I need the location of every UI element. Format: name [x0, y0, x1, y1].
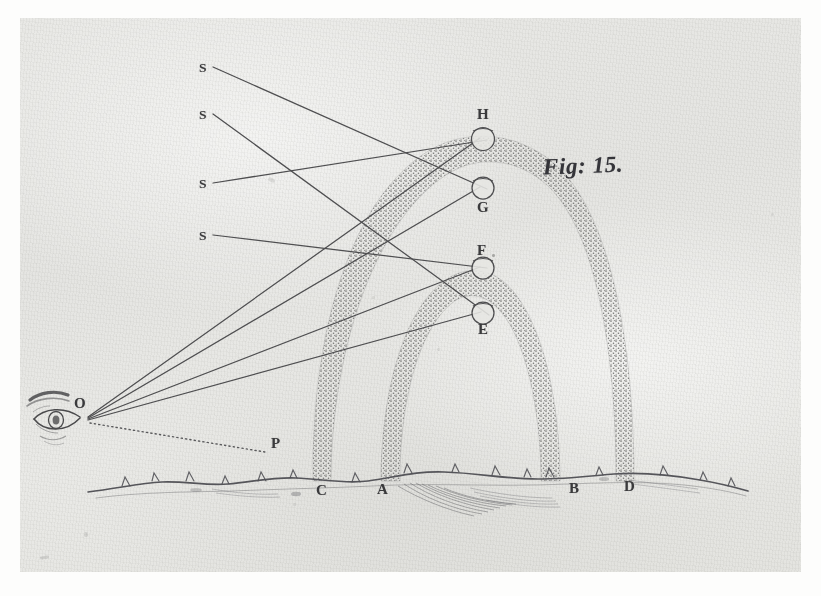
label-raindrop-f: F [477, 243, 486, 258]
label-ground-point-d: D [624, 479, 635, 494]
label-sun-ray-4: S [199, 229, 207, 243]
label-ground-point-a: A [377, 482, 388, 497]
label-sun-ray-3: S [199, 177, 207, 191]
ground-terrain [88, 464, 748, 516]
label-ground-point-b: B [569, 481, 579, 496]
visual-ray-to-H [88, 138, 480, 417]
raindrop-G [472, 177, 494, 199]
label-raindrop-e: E [478, 322, 488, 337]
horizon-axis-dotted-line [90, 423, 265, 452]
raindrop-F [472, 257, 494, 279]
label-raindrop-h: H [477, 107, 489, 122]
eye-icon [27, 392, 80, 444]
label-ground-point-c: C [316, 483, 327, 498]
label-eye-point-o: O [74, 396, 86, 411]
raindrop-H [472, 128, 495, 151]
label-horizon-point-p: P [271, 436, 280, 451]
solar-ray-1 [213, 67, 487, 189]
visual-ray-to-G [88, 187, 480, 418]
figure-caption: Fig: 15. [543, 151, 624, 180]
label-sun-ray-2: S [199, 108, 207, 122]
visual-ray-to-E [88, 312, 481, 420]
rainbow-diagram-svg [0, 0, 821, 596]
label-raindrop-g: G [477, 200, 489, 215]
label-sun-ray-1: S [199, 61, 207, 75]
engraving-plate: S S S S O P H G F E C A B D Fig: 15. [0, 0, 821, 596]
